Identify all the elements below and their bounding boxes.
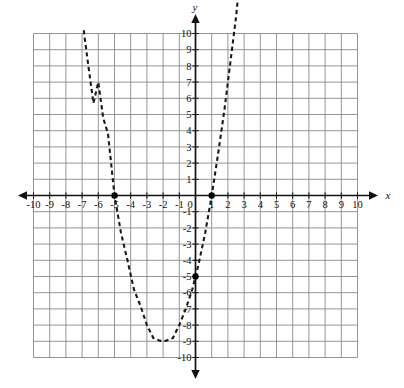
y-axis-tick-label: -9: [183, 336, 192, 347]
marked-point: [192, 273, 198, 279]
graph-canvas: -10-9-8-7-6-5-4-3-2-11234567891001098765…: [0, 0, 404, 388]
y-axis-tick-label: -3: [183, 239, 192, 250]
y-axis-tick-label: -4: [183, 255, 192, 266]
x-axis-arrow-right: [369, 191, 378, 199]
x-axis-tick-label: -10: [27, 199, 41, 210]
x-axis-tick-label: 3: [241, 199, 246, 210]
y-axis-tick-label: 9: [186, 44, 191, 55]
x-axis-tick-label: 4: [258, 199, 264, 210]
coordinate-plane: -10-9-8-7-6-5-4-3-2-11234567891001098765…: [0, 0, 404, 388]
y-axis-tick-label: 2: [186, 158, 191, 169]
y-axis-label: y: [192, 1, 198, 13]
x-axis-tick-label: 10: [352, 199, 363, 210]
y-axis-tick-label: 6: [186, 93, 191, 104]
x-axis-tick-label: -3: [143, 199, 152, 210]
y-axis-arrow-bottom: [191, 370, 199, 379]
x-axis-tick-label: -2: [159, 199, 168, 210]
y-axis-arrow-top: [191, 14, 199, 23]
x-axis-tick-label: 8: [322, 199, 327, 210]
y-axis-tick-label: 4: [186, 125, 192, 136]
y-axis-tick-label: 10: [181, 28, 192, 39]
y-axis-tick-label: 7: [186, 77, 191, 88]
y-axis-tick-label: 8: [186, 61, 191, 72]
x-axis-tick-label: 2: [225, 199, 230, 210]
y-axis-tick-label: 5: [186, 109, 191, 120]
y-axis-tick-label: -2: [183, 223, 192, 234]
x-axis-tick-label: -9: [45, 199, 54, 210]
x-axis-label: x: [385, 189, 391, 201]
y-axis-tick-label: -5: [183, 271, 192, 282]
curve-parabola: [84, 0, 240, 341]
x-axis-tick-label: -6: [94, 199, 103, 210]
x-axis-tick-label: -7: [78, 199, 87, 210]
marked-point: [209, 192, 215, 198]
x-axis-tick-label: 5: [274, 199, 279, 210]
x-axis-tick-label: 9: [339, 199, 344, 210]
y-axis-tick-label: 3: [186, 142, 191, 153]
marked-point: [111, 192, 117, 198]
x-axis-tick-label: 6: [290, 199, 295, 210]
x-axis-tick-label: 7: [306, 199, 311, 210]
x-axis-tick-label: -4: [126, 199, 135, 210]
y-axis-tick-label: -10: [178, 352, 192, 363]
y-axis-tick-label: 1: [186, 174, 191, 185]
x-axis-tick-label: -8: [62, 199, 71, 210]
y-axis-tick-label: -1: [183, 206, 192, 217]
y-axis-tick-label: -8: [183, 320, 192, 331]
